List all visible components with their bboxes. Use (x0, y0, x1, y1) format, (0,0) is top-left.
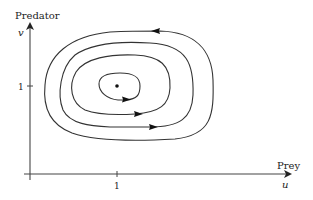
y-axis-variable: v (18, 27, 24, 38)
arrow-right-icon (122, 97, 131, 103)
equilibrium-point (115, 84, 119, 88)
x-axis-label: Prey (277, 160, 300, 171)
orbit-outer (45, 31, 214, 140)
y-axis-label: Predator (15, 10, 60, 21)
phase-portrait: Predator v 1 1 Prey u (0, 0, 313, 200)
arrow-right-icon (134, 111, 143, 117)
x-tick-label: 1 (114, 181, 120, 191)
orbit-inner (99, 73, 140, 100)
x-axis-variable: u (282, 179, 288, 190)
y-tick-label: 1 (18, 82, 24, 92)
arrow-left-icon (151, 28, 160, 34)
x-axis (24, 171, 290, 177)
y-axis (27, 24, 33, 180)
arrow-right-icon (149, 124, 158, 130)
orbit-third (72, 55, 170, 115)
